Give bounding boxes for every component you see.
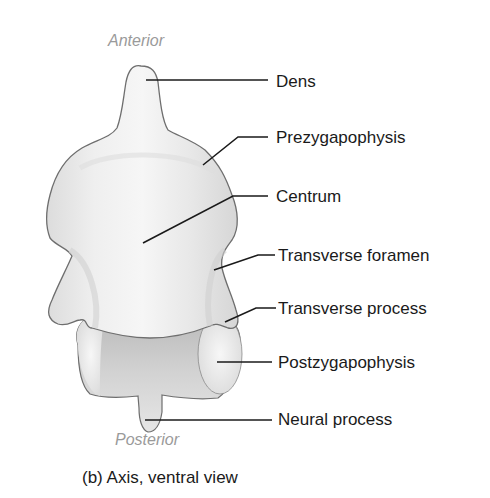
- label-transverse-foramen: Transverse foramen: [278, 247, 429, 264]
- label-postzygapophysis: Postzygapophysis: [278, 354, 415, 371]
- label-prezygapophysis: Prezygapophysis: [276, 129, 405, 146]
- label-neural-process: Neural process: [278, 411, 392, 428]
- centrum-body: [47, 66, 238, 338]
- figure-caption: (b) Axis, ventral view: [82, 469, 238, 486]
- leader-transverse-foramen: [214, 255, 275, 270]
- label-dens: Dens: [276, 73, 316, 90]
- label-centrum: Centrum: [276, 188, 341, 205]
- orientation-anterior: Anterior: [108, 33, 164, 49]
- axis-vertebra-diagram: Anterior Posterior Dens Prezygapophysis …: [0, 0, 490, 498]
- orientation-posterior: Posterior: [115, 432, 179, 448]
- label-transverse-process: Transverse process: [278, 300, 427, 317]
